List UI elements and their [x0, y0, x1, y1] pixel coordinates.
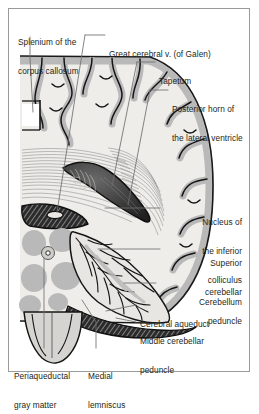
label-medial-lemniscus-line2: lemniscus [88, 401, 150, 411]
label-periaqueductal-gray-line1: Periaqueductal [14, 372, 86, 382]
label-middle-cerebellar-peduncle-line2: peduncle [140, 366, 252, 376]
label-posterior-horn-line1: Posterior horn of [172, 105, 258, 115]
label-medial-lemniscus: Medial lemniscus [88, 352, 150, 414]
label-inferior-colliculus-line1: Nucleus of [154, 218, 242, 228]
label-middle-cerebellar-peduncle: Middle cerebellar peduncle [140, 317, 252, 395]
label-medial-lemniscus-line1: Medial [88, 372, 150, 382]
label-superior-cerebellar-peduncle-line1: Superior [154, 259, 242, 269]
label-posterior-horn-line2: the lateral ventricle [172, 134, 258, 144]
splenium-of-corpus-callosum [22, 100, 40, 130]
label-posterior-horn-of-lateral-ventricle: Posterior horn of the lateral ventricle [172, 85, 258, 163]
cerebral-aqueduct-and-periaqueductal-gray [42, 247, 55, 260]
label-periaqueductal-gray-line2: gray matter [14, 401, 86, 411]
label-middle-cerebellar-peduncle-line1: Middle cerebellar [140, 337, 252, 347]
label-periaqueductal-gray-matter: Periaqueductal gray matter [14, 352, 86, 414]
